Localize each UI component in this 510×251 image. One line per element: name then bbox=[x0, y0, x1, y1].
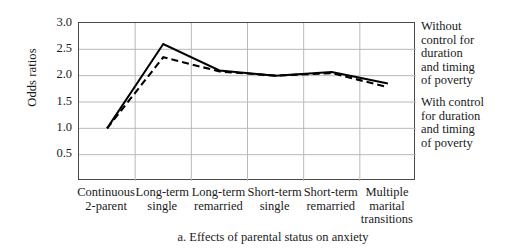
legend-entry-with-control: With control for duration and timing of … bbox=[421, 96, 509, 150]
gridlines bbox=[79, 23, 416, 181]
y-tick-label: 2.0 bbox=[38, 68, 72, 81]
legend-entry-without-control: Without control for duration and timing … bbox=[421, 20, 509, 88]
x-tick-label: Multiplemaritaltransitions bbox=[351, 186, 423, 227]
figure-caption: a. Effects of parental status on anxiety bbox=[0, 230, 510, 245]
figure-panel: Odds ratios 0.51.01.52.02.53.0 Continuou… bbox=[0, 0, 510, 251]
plot-area bbox=[78, 22, 415, 180]
y-tick-label: 1.5 bbox=[38, 95, 72, 108]
chart-svg bbox=[79, 23, 416, 181]
y-tick-label: 2.5 bbox=[38, 42, 72, 55]
y-tick-label: 1.0 bbox=[38, 121, 72, 134]
y-tick-label: 3.0 bbox=[38, 16, 72, 29]
y-tick-label: 0.5 bbox=[38, 147, 72, 160]
